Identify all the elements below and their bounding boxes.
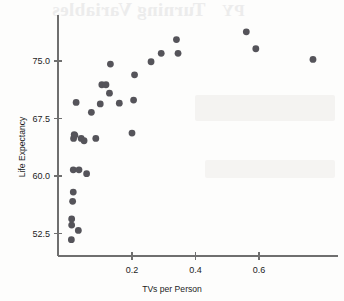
scatter-plot-figure: Turning Variables PY 52.560.067.575.0 0.… — [0, 0, 344, 301]
scatter-point — [130, 97, 137, 104]
scatter-point — [73, 99, 80, 106]
scatter-point — [97, 101, 104, 108]
scatter-point — [252, 45, 259, 52]
x-axis: 0.20.40.6 — [58, 252, 338, 275]
scatter-point — [129, 130, 136, 137]
scatter-point — [68, 216, 75, 223]
x-axis-title: TVs per Person — [142, 284, 202, 294]
scatter-point — [131, 71, 138, 78]
y-tick-label: 60.0 — [32, 171, 50, 181]
scatter-point — [68, 236, 75, 243]
scatter-point — [68, 222, 75, 229]
scatter-point — [106, 90, 113, 97]
scatter-point — [69, 198, 76, 205]
x-tick-label: 0.4 — [189, 265, 202, 275]
x-tick-label: 0.6 — [253, 265, 266, 275]
plot-canvas: 52.560.067.575.0 0.20.40.6 TVs per Perso… — [0, 0, 344, 301]
scatter-point — [70, 189, 77, 196]
y-tick-label: 67.5 — [32, 114, 50, 124]
scatter-point — [310, 56, 317, 63]
scatter-point — [92, 135, 99, 142]
scatter-point — [148, 58, 155, 65]
scatter-point — [158, 50, 165, 57]
scatter-point — [103, 81, 110, 88]
scatter-point — [81, 137, 88, 144]
y-tick-label: 75.0 — [32, 56, 50, 66]
scatter-point — [107, 61, 114, 68]
scatter-point — [175, 50, 182, 57]
y-axis: 52.560.067.575.0 — [32, 15, 62, 256]
scatter-point — [71, 132, 78, 139]
x-tick-label: 0.2 — [126, 265, 139, 275]
scatter-point — [83, 170, 90, 177]
scatter-point — [116, 100, 123, 107]
scatter-point — [75, 227, 82, 234]
y-tick-label: 52.5 — [32, 229, 50, 239]
scatter-point — [88, 109, 95, 116]
data-points — [68, 28, 316, 243]
y-axis-title: Life Expectancy — [17, 116, 27, 177]
scatter-point — [173, 36, 180, 43]
scatter-point — [76, 166, 83, 173]
scatter-point — [243, 28, 250, 35]
